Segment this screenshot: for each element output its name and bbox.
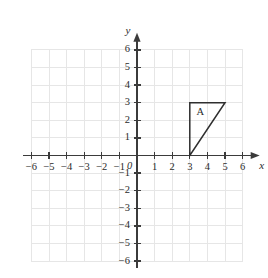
x-axis-arrow-icon (251, 152, 260, 159)
y-axis-tick-label: 5 (125, 61, 130, 72)
y-axis-tick-label: 1 (125, 131, 130, 142)
y-axis-tick-label: 2 (125, 114, 130, 125)
y-axis-tick-label: −6 (119, 255, 130, 266)
coordinate-plane-figure: −6−5−4−3−2−1123456−6−5−4−3−2−1123456 A 0… (0, 0, 268, 278)
y-axis-tick-label: −5 (119, 237, 130, 248)
y-axis-tick-label: 6 (125, 43, 130, 54)
y-axis-tick-label: 4 (125, 79, 131, 90)
x-axis-tick-label: 1 (152, 161, 157, 172)
x-axis-tick-label: −6 (26, 161, 37, 172)
x-axis-tick-label: 4 (205, 161, 211, 172)
x-axis-tick-label: 5 (222, 161, 227, 172)
x-axis-tick-label: 6 (240, 161, 245, 172)
y-axis-tick-label: −2 (119, 184, 130, 195)
coordinate-plane-svg: −6−5−4−3−2−1123456−6−5−4−3−2−1123456 A 0… (0, 0, 268, 278)
x-axis-tick-label: 2 (170, 161, 175, 172)
shape-label-a: A (197, 106, 205, 117)
axis-lines (23, 33, 259, 268)
y-axis-arrow-icon (133, 33, 140, 42)
x-axis-tick-label: −2 (96, 161, 107, 172)
y-axis-tick-label: −4 (119, 219, 131, 230)
y-axis-tick-label: −3 (119, 202, 130, 213)
axis-ticks: −6−5−4−3−2−1123456−6−5−4−3−2−1123456 (26, 43, 245, 265)
x-axis-tick-label: −4 (61, 161, 73, 172)
x-axis-tick-label: 3 (187, 161, 192, 172)
x-axis-tick-label: −5 (43, 161, 54, 172)
x-axis-name-label: x (258, 159, 264, 171)
origin-label: 0 (127, 160, 133, 171)
x-axis-tick-label: −3 (79, 161, 90, 172)
y-axis-name-label: y (125, 24, 131, 36)
y-axis-tick-label: 3 (125, 96, 130, 107)
